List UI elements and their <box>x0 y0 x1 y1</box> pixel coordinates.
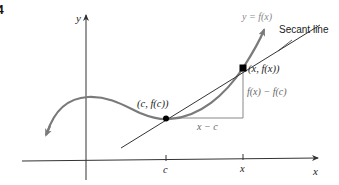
x-axis <box>22 158 318 161</box>
rise-label: f(x) − f(c) <box>247 87 287 97</box>
secant-line-label: Secant line <box>279 25 328 35</box>
run-label: x − c <box>197 122 218 132</box>
tick-label-c: c <box>163 165 168 176</box>
secant-label-leader <box>278 40 292 51</box>
point-label-c-fc: (c, f(c)) <box>137 99 168 110</box>
x-axis-label: x <box>313 166 318 177</box>
point-x-fx <box>240 65 247 72</box>
tick-label-x: x <box>240 164 245 175</box>
point-c-fc <box>163 116 169 122</box>
y-axis-label: y <box>76 13 81 24</box>
point-label-x-fx: (x, f(x)) <box>248 64 279 75</box>
secant-line <box>121 25 320 148</box>
curve-label: y = f(x) <box>242 12 272 22</box>
